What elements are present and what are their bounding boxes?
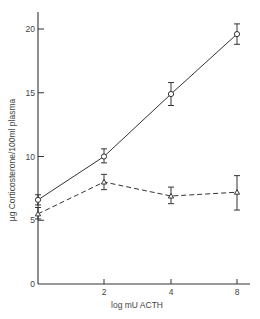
- line-chart: 05101520248 log mU ACTH µg Corticosteron…: [0, 0, 260, 319]
- series-line: [38, 34, 237, 200]
- axes: 05101520248: [26, 12, 250, 297]
- x-tick-label: 2: [102, 287, 107, 297]
- y-tick-label: 20: [26, 24, 36, 34]
- series-layer: [35, 24, 240, 219]
- y-tick-label: 10: [26, 152, 36, 162]
- circle-marker: [35, 197, 40, 202]
- y-axis-label: µg Corticosterone/100ml plasma: [7, 98, 17, 221]
- series-1: [35, 24, 240, 205]
- triangle-marker: [101, 179, 106, 184]
- circle-marker: [101, 154, 106, 159]
- triangle-marker: [168, 193, 173, 198]
- x-tick-label: 8: [235, 287, 240, 297]
- series-line: [38, 182, 237, 214]
- y-tick-label: 5: [30, 215, 35, 225]
- triangle-marker: [234, 190, 239, 195]
- x-axis-label: log mU ACTH: [111, 300, 163, 310]
- circle-marker: [234, 31, 239, 36]
- y-tick-label: 15: [26, 88, 36, 98]
- x-tick-label: 4: [169, 287, 174, 297]
- circle-marker: [168, 91, 173, 96]
- triangle-marker: [35, 211, 40, 216]
- y-tick-label: 0: [30, 279, 35, 289]
